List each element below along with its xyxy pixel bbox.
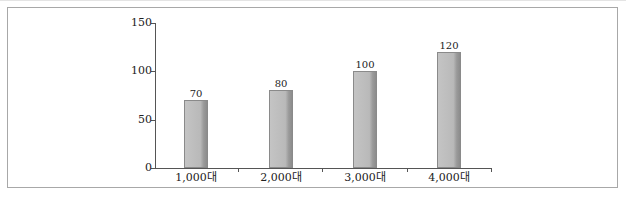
bar-3000 (353, 71, 377, 168)
x-label-2000: 2,000대 (246, 172, 316, 184)
bar-2000 (269, 90, 293, 168)
x-tick (322, 168, 323, 172)
x-label-4000: 4,000대 (414, 172, 484, 184)
top-border-line (0, 0, 626, 1)
y-tick-label-100: 100 (112, 65, 152, 77)
x-label-3000: 3,000대 (330, 172, 400, 184)
x-tick (407, 168, 408, 172)
x-label-1000: 1,000대 (161, 172, 231, 184)
x-tick (238, 168, 239, 172)
y-tick-label-150: 150 (112, 17, 152, 29)
y-tick-label-50: 50 (112, 114, 152, 126)
value-label-4000: 120 (429, 40, 469, 51)
y-axis (155, 23, 156, 169)
y-tick-label-0: 0 (112, 162, 152, 174)
bar-1000 (184, 100, 208, 168)
value-label-2000: 80 (261, 78, 301, 89)
x-tick (491, 168, 492, 172)
x-axis (155, 168, 492, 169)
value-label-3000: 100 (345, 59, 385, 70)
chart-frame (7, 7, 618, 188)
bar-4000 (437, 52, 461, 168)
value-label-1000: 70 (176, 88, 216, 99)
